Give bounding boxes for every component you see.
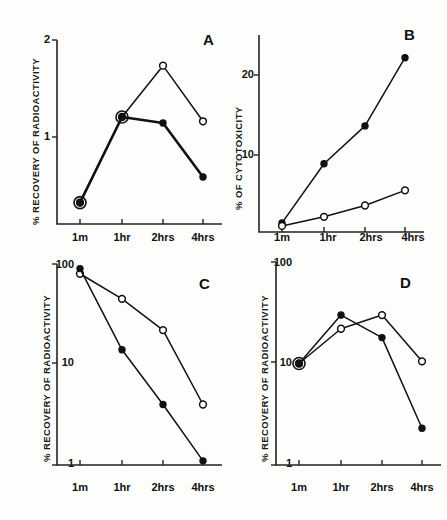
figure-panel-grid: % RECOVERY OF RADIOACTIVITY A 2 1 1m 1hr…	[0, 0, 447, 520]
panel-d-plot	[0, 0, 447, 520]
